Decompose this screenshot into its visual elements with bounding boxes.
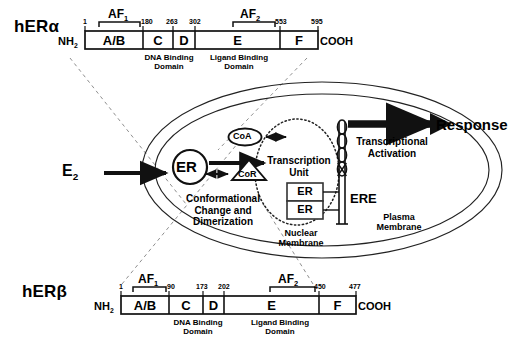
response-label: Response [436, 117, 508, 132]
er-receptor-label: ER [176, 159, 197, 174]
coactivator-label: CoA [233, 132, 252, 141]
her-beta-position-202: 202 [218, 283, 230, 290]
her-alpha-position-263: 263 [166, 18, 178, 25]
her-beta-segment-e: E [224, 299, 319, 312]
e2-ligand-label: E2 [62, 163, 78, 182]
her-beta-position-1: 1 [119, 283, 123, 290]
her-alpha-position-180: 180 [141, 18, 153, 25]
ere-label: ERE [350, 192, 377, 205]
her-beta-title: hERβ [22, 283, 67, 300]
her-beta-position-450: 450 [314, 283, 326, 290]
her-alpha-segment-e: E [0, 34, 475, 47]
conformational-change-label: ConformationalChange andDimerization [168, 193, 278, 228]
nuclear-membrane-label: NuclearMembrane [266, 228, 336, 249]
corepressor-label: CoR [238, 170, 257, 179]
her-alpha-position-1: 1 [83, 18, 87, 25]
her-beta-position-477: 477 [349, 283, 361, 290]
her-beta-segment-d: D [0, 299, 427, 312]
her-alpha-title: hERα [14, 18, 59, 35]
her-alpha-ligand-binding-domain-label: Ligand BindingDomain [198, 53, 280, 71]
her-beta-ligand-binding-domain-label: Ligand BindingDomain [238, 318, 322, 336]
transcriptional-activation-label: TranscriptionalActivation [350, 136, 434, 159]
er-dimer-label-top: ER [287, 186, 323, 197]
her-alpha-af1-label: AF1 [108, 8, 128, 23]
projection-line-alpha-left [70, 58, 186, 204]
her-beta-dna-binding-domain-label: DNA BindingDomain [159, 318, 237, 336]
her-beta-segment-f: F [319, 299, 356, 312]
her-alpha-position-595: 595 [311, 18, 323, 25]
her-beta-position-90: 90 [167, 283, 175, 290]
her-beta-af1-label: AF1 [138, 273, 158, 288]
her-alpha-dna-binding-domain-label: DNA BindingDomain [131, 53, 207, 71]
diagram-canvas: hERα NH2 COOH AF1 AF2 1 180 263 302 553 … [0, 0, 509, 350]
her-alpha-position-553: 553 [275, 18, 287, 25]
her-beta-position-173: 173 [196, 283, 208, 290]
er-dimer-label-bottom: ER [287, 204, 323, 215]
her-alpha-segment-f: F [280, 34, 318, 47]
her-alpha-af2-label: AF2 [240, 8, 260, 23]
transcription-unit-label: TranscriptionUnit [261, 155, 337, 178]
her-beta-af2-label: AF2 [278, 273, 298, 288]
plasma-membrane-label: PlasmaMembrane [366, 212, 432, 233]
her-alpha-position-302: 302 [189, 18, 201, 25]
